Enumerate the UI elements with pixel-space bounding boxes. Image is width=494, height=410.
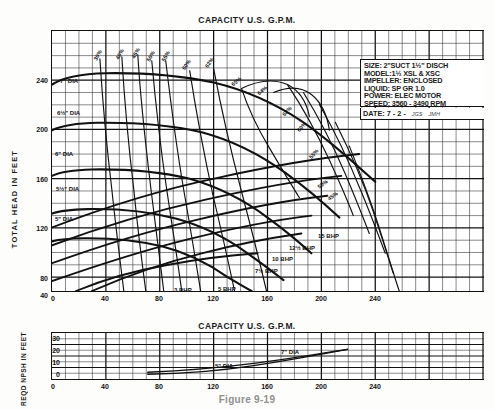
- main-chart-title: CAPACITY U.S. G.P.M.: [0, 15, 494, 25]
- main-ytick-200: 200: [24, 126, 48, 133]
- main-xtick-200: 200: [315, 295, 327, 302]
- efficiency-contours: [100, 55, 329, 291]
- eff-contour-40: [122, 57, 146, 291]
- main-ytick-40: 40: [24, 292, 48, 299]
- main-xtick-240: 240: [369, 295, 381, 302]
- npsh-ytick-0: 0: [36, 371, 60, 378]
- npsh-grid: [52, 333, 484, 379]
- main-xtick-120: 120: [207, 295, 219, 302]
- main-y-axis-label: TOTAL HEAD IN FEET: [10, 150, 19, 248]
- npsh-xtick-200: 200: [315, 383, 327, 390]
- bhp-curve-12-5: [52, 176, 341, 245]
- npsh-xtick-160: 160: [261, 383, 273, 390]
- impeller-label-7in: 7" DIA: [60, 78, 78, 84]
- figure-caption: Figure 9-19: [0, 394, 494, 405]
- pump-curve-sheet: CAPACITY U.S. G.P.M. TOTAL HEAD IN FEET: [0, 0, 494, 410]
- date-cell-2: JMH: [423, 111, 440, 117]
- npsh-xtick-0: 0: [51, 383, 55, 390]
- main-xtick-80: 80: [155, 295, 163, 302]
- bhp-curve-5: [92, 233, 302, 291]
- npsh-ytick-20: 20: [36, 347, 60, 354]
- npsh-curve-7in: [148, 349, 348, 372]
- main-ytick-160: 160: [24, 175, 48, 182]
- date-label: DATE: 7 - 2 -: [361, 109, 406, 118]
- bhp-label-10: 10 BHP: [272, 256, 293, 262]
- npsh-chart-title: CAPACITY U.S. G.P.M.: [0, 321, 494, 331]
- main-xtick-160: 160: [261, 295, 273, 302]
- date-cell-1: JGS: [406, 111, 423, 117]
- specification-box: SIZE: 2"SUCT 1½" DISCH MODEL:1½ XSL & XS…: [360, 59, 484, 107]
- bhp-label-5: 5 BHP: [218, 286, 236, 292]
- npsh-xtick-240: 240: [369, 383, 381, 390]
- npsh-xtick-40: 40: [101, 383, 109, 390]
- impeller-label-6in: 6" DIA: [55, 151, 73, 157]
- bhp-label-3: 3 BHP: [174, 287, 192, 293]
- spec-speed: SPEED: 3560 - 3490 RPM: [364, 100, 482, 108]
- main-xtick-40: 40: [101, 295, 109, 302]
- npsh-plot: [51, 332, 484, 380]
- npsh-ytick-30: 30: [36, 335, 60, 342]
- main-ytick-240: 240: [24, 76, 48, 83]
- npsh-xtick-80: 80: [155, 383, 163, 390]
- impeller-label-5in: 5" DIA: [55, 216, 73, 222]
- bhp-label-15: 15 BHP: [318, 233, 339, 239]
- npsh-xtick-120: 120: [207, 383, 219, 390]
- eff-contour-30: [100, 59, 124, 291]
- impeller-label-5-5in: 5½" DIA: [56, 186, 79, 192]
- npsh-ytick-10: 10: [36, 359, 60, 366]
- main-xtick-0: 0: [51, 295, 55, 302]
- npsh-label-5in: 5" DIA: [215, 363, 233, 369]
- date-row: DATE: 7 - 2 - JGS JMH: [360, 108, 484, 120]
- bhp-label-7-5: 7½ BHP: [255, 268, 278, 274]
- main-ytick-80: 80: [24, 275, 48, 282]
- eff-contour-65-loop: [242, 81, 310, 116]
- bhp-curves: [52, 154, 359, 291]
- bhp-curve-10: [52, 196, 327, 263]
- impeller-label-6-5in: 6½" DIA: [57, 110, 80, 116]
- bhp-label-12-5: 12½ BHP: [289, 245, 315, 251]
- main-ytick-120: 120: [24, 225, 48, 232]
- eff-contour-62: [214, 69, 267, 291]
- npsh-label-7in: 7" DIA: [281, 349, 299, 355]
- npsh-plot-svg: [52, 333, 484, 379]
